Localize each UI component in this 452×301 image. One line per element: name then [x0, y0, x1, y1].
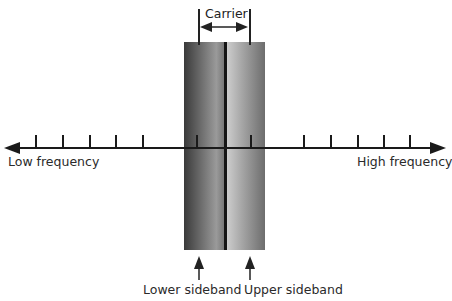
carrier-arrow-right-icon — [236, 22, 248, 32]
lower-sideband-arrow-icon — [194, 256, 204, 269]
lower-sideband-label: Lower sideband — [143, 282, 241, 297]
upper-sideband-arrow-icon — [245, 256, 255, 269]
high-frequency-label: High frequency — [357, 154, 452, 169]
axis-right-arrow-icon — [430, 142, 446, 154]
low-frequency-label: Low frequency — [8, 154, 99, 169]
carrier-arrow-left-icon — [200, 22, 212, 32]
axis-left-arrow-icon — [4, 142, 20, 154]
upper-sideband-label: Upper sideband — [244, 282, 343, 297]
